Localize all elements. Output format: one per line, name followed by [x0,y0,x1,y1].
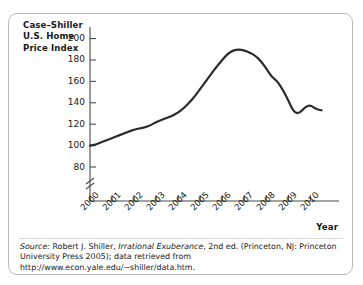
y-tick-label: 140 [59,98,85,107]
y-tick-label: 120 [59,120,85,129]
source-book-title: Irrational Exuberance [118,242,203,251]
figure-panel: Case–Shiller U.S. Home Price Index Case–… [8,13,353,275]
source-author: Robert J. Shiller, [50,242,118,251]
y-tick-label: 100 [59,141,85,150]
data-series-group [90,50,321,146]
source-label: Source: [20,242,50,251]
y-tick-label: 160 [59,77,85,86]
y-tick-label: 80 [59,163,85,172]
tick-marks-group [90,39,310,201]
axes-group [90,27,339,201]
source-note: Source: Robert J. Shiller, Irrational Ex… [20,242,342,273]
y-tick-label: 180 [59,55,85,64]
y-tick-label: 200 [59,34,85,43]
source-divider [19,238,343,239]
data-line-Case–Shiller U.S. Home Price Index [90,50,321,146]
x-axis-title: Year [316,222,338,233]
